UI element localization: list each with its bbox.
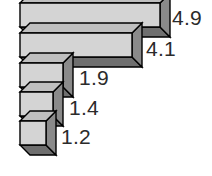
bar-top-face-3 (20, 53, 73, 63)
bar-value-label-1: 4.9 (172, 7, 202, 28)
bar-value-label-5: 1.2 (61, 126, 91, 147)
bar-front-face-5 (20, 121, 46, 145)
bar-5 (20, 111, 56, 155)
bar-chart: 4.94.11.91.41.2 (0, 0, 212, 176)
bar-value-label-3: 1.9 (79, 67, 109, 88)
bar-value-label-4: 1.4 (69, 97, 99, 118)
bar-top-face-2 (20, 23, 142, 33)
bar-value-label-2: 4.1 (146, 38, 176, 59)
